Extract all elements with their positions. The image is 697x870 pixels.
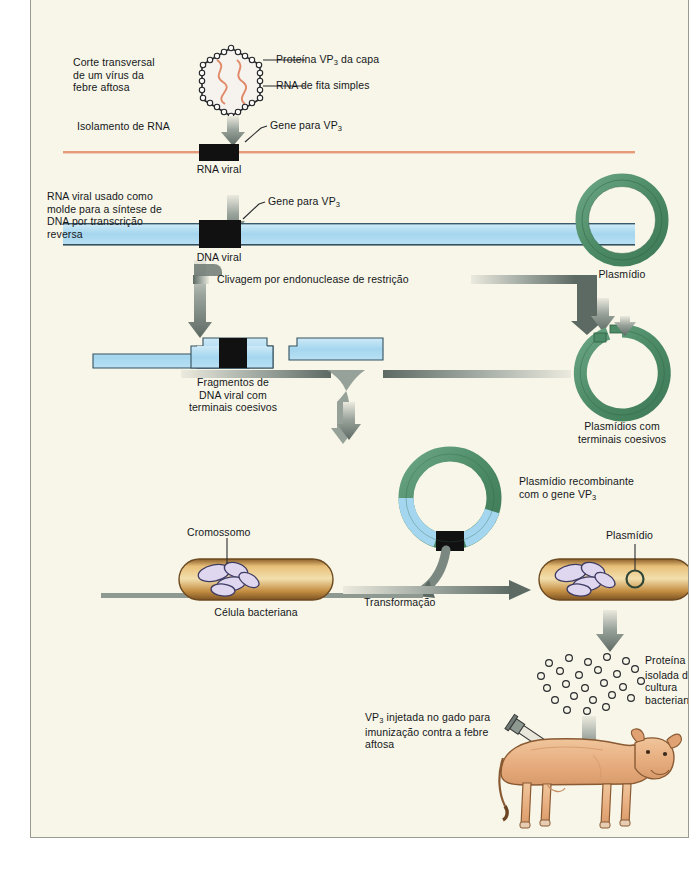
callout-coat-protein: Proteína VP3 da capa bbox=[276, 53, 379, 68]
gene-label-rna-sub: 3 bbox=[338, 124, 342, 133]
dna-fragment-middle bbox=[191, 338, 273, 368]
callout-coat-protein-sub: 3 bbox=[334, 58, 338, 67]
gene-label-rna-text: Gene para VP bbox=[270, 119, 338, 131]
step-reverse-transcription-label: RNA viral usado como molde para a síntes… bbox=[47, 190, 199, 240]
step-transformation-label: Transformação bbox=[364, 596, 436, 609]
protein-isolated-rest: isolada da cultura bacteriana bbox=[645, 669, 689, 706]
virus-particle-icon bbox=[199, 45, 262, 118]
protein-cloud-icon bbox=[538, 654, 645, 715]
screenshot-root: Corte transversal de um vírus da febre a… bbox=[0, 0, 697, 870]
immunization-sub: 3 bbox=[379, 716, 383, 725]
virus-caption: Corte transversal de um vírus da febre a… bbox=[73, 56, 203, 94]
recombinant-plasmid-label: Plasmídio recombinante com o gene VP3 bbox=[519, 475, 679, 502]
callout-rna: RNA de fita simples bbox=[276, 79, 370, 92]
plasmid-open-icon bbox=[580, 325, 664, 415]
recombinant-plasmid-text: Plasmídio recombinante com o gene VP bbox=[519, 475, 634, 500]
chromosome-label: Cromossomo bbox=[187, 526, 250, 539]
step-cleavage-label: Clivagem por endonuclease de restrição bbox=[217, 273, 409, 286]
plasmids-sticky-label: Plasmídios com terminais coesivos bbox=[552, 420, 689, 445]
callout-coat-protein-text: Proteína VP bbox=[276, 53, 334, 65]
callout-coat-protein-rest: da capa bbox=[338, 53, 379, 65]
arrow-rna-isolation bbox=[221, 116, 245, 146]
recombinant-plasmid-icon bbox=[406, 454, 494, 551]
gene-label-dna-sub: 3 bbox=[336, 200, 340, 209]
plasmid-in-cell-label: Plasmídio bbox=[606, 529, 653, 542]
plasmid-circle-icon bbox=[582, 180, 662, 260]
protein-isolated-label: Proteína VP3isolada da cultura bacterian… bbox=[645, 654, 689, 706]
immunization-text: VP bbox=[365, 711, 379, 723]
protein-isolated-text: Proteína VP bbox=[645, 654, 689, 666]
rna-viral-label: RNA viral bbox=[179, 163, 259, 176]
dna-fragment-right bbox=[289, 338, 383, 360]
transformed-bacterial-cell-icon bbox=[539, 544, 689, 600]
arrow-to-protein bbox=[596, 610, 624, 652]
plasmid-label: Plasmídio bbox=[582, 268, 662, 281]
fragments-label: Fragmentos de DNA viral com terminais co… bbox=[162, 376, 304, 414]
dna-viral-label: DNA viral bbox=[179, 251, 259, 264]
bacterial-cell-icon bbox=[179, 538, 333, 600]
gene-label-dna: Gene para VP3 bbox=[268, 195, 340, 210]
recombinant-plasmid-sub: 3 bbox=[592, 493, 596, 502]
figure-plate: Corte transversal de um vírus da febre a… bbox=[30, 0, 689, 838]
bacterial-cell-label: Célula bacteriana bbox=[181, 606, 331, 619]
step-rna-isolation-label: Isolamento de RNA bbox=[77, 120, 170, 133]
gene-label-dna-text: Gene para VP bbox=[268, 195, 336, 207]
immunization-label: VP3 injetada no gado para imunização con… bbox=[365, 711, 533, 751]
gene-label-rna: Gene para VP3 bbox=[270, 119, 342, 134]
